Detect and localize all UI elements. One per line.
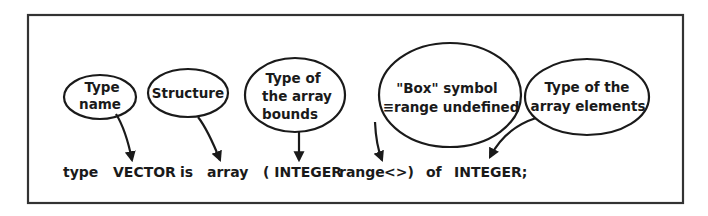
code-token-box: <>) — [384, 164, 414, 180]
code-token-array: array — [207, 164, 248, 180]
callout-bounds-type: Type of the array bounds — [245, 58, 345, 160]
callout-line: ≡range undefined — [383, 99, 520, 115]
code-token-integer-elements: INTEGER; — [454, 164, 527, 180]
callout-line: name — [79, 96, 121, 112]
arrow-to-box-symbol — [375, 122, 382, 160]
callout-ellipse — [525, 59, 649, 135]
callout-type-name: Type name — [64, 75, 136, 160]
code-token-of: of — [426, 164, 443, 180]
code-token-is: is — [180, 164, 193, 180]
callout-line: Structure — [152, 85, 224, 101]
code-token-type: type — [63, 164, 98, 180]
arrow-to-element-integer — [490, 118, 536, 157]
code-token-integer-bounds: ( INTEGER — [263, 164, 342, 180]
callout-structure: Structure — [148, 69, 228, 160]
callout-line: Type of — [265, 70, 320, 86]
code-token-vector: VECTOR — [113, 164, 176, 180]
ada-array-type-diagram: Type name Structure Type of the array bo… — [0, 0, 708, 216]
callout-line: the array — [262, 88, 332, 104]
code-token-range: range — [339, 164, 385, 180]
callout-line: "Box" symbol — [396, 80, 498, 96]
callout-line: Type — [84, 79, 119, 95]
callout-line: array elements — [531, 98, 646, 114]
callout-line: Type of the — [545, 79, 630, 95]
arrow-to-vector — [116, 114, 132, 160]
code-line: type VECTOR is array ( INTEGER range <>)… — [63, 164, 527, 180]
callout-line: bounds — [262, 106, 318, 122]
arrow-to-array — [198, 117, 220, 160]
